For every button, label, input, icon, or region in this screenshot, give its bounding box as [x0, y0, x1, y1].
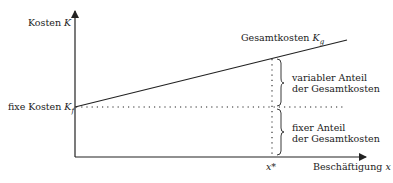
brace-fixed — [277, 109, 284, 155]
brace-variable — [277, 59, 284, 106]
fixed-share-label: fixer Anteilder Gesamtkosten — [292, 122, 380, 144]
y-axis-label: Kosten K — [28, 17, 72, 28]
total-cost-label: Gesamtkosten Kg — [241, 32, 325, 46]
fixed-cost-label: fixe Kosten Kf — [8, 101, 75, 115]
cost-diagram: Kosten K fixe Kosten Kf Gesamtkosten Kg … — [0, 0, 393, 183]
x-star-label: x* — [266, 161, 276, 172]
x-axis-label: Beschäftigung x — [313, 161, 391, 172]
variable-share-label: variabler Anteilder Gesamtkosten — [291, 72, 380, 94]
